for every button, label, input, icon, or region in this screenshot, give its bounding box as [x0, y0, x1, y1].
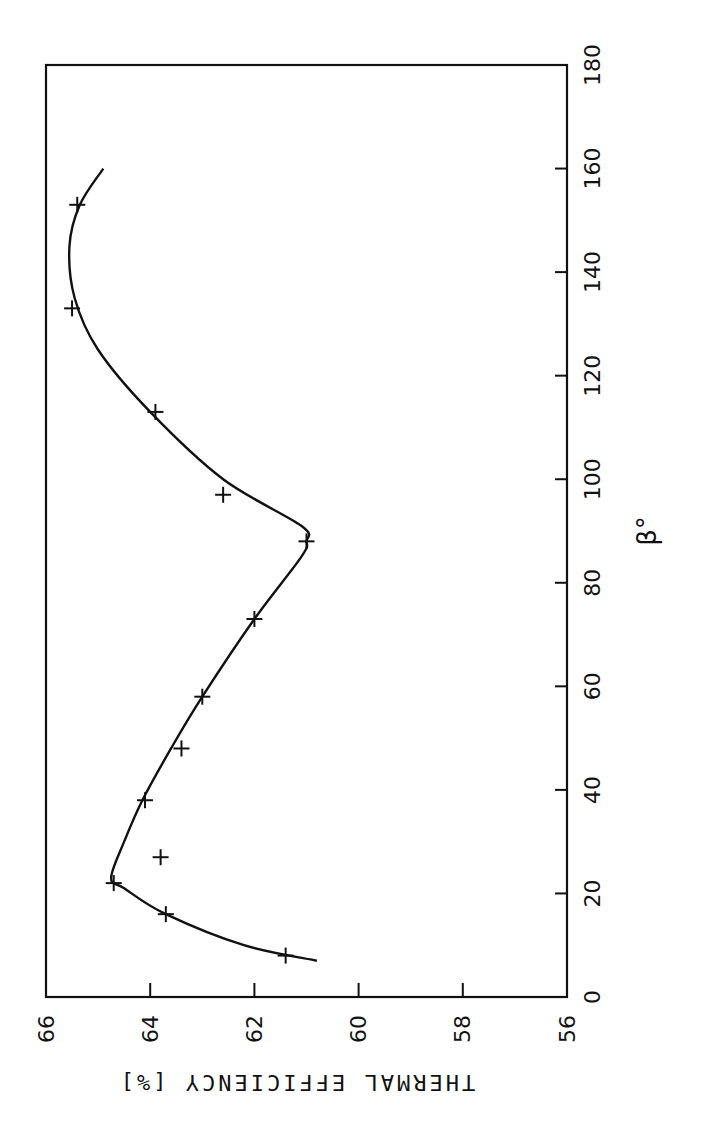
axis-ticks: 020406080100120140160180565860626466: [34, 44, 605, 1043]
data-point-marker: [215, 487, 231, 503]
data-point-marker: [278, 948, 294, 964]
x-tick-label: 20: [580, 879, 605, 907]
x-tick-label: 120: [580, 355, 605, 397]
x-tick-label: 180: [580, 44, 605, 86]
y-tick-label: 62: [242, 1015, 267, 1043]
y-tick-label: 56: [555, 1015, 580, 1043]
x-tick-label: 160: [580, 148, 605, 190]
axis-labels: β° THERMAL EFFICIENCY [%]: [118, 516, 662, 1094]
x-tick-label: 100: [580, 458, 605, 500]
data-point-marker: [153, 849, 169, 865]
data-point-marker: [147, 404, 163, 420]
fitted-curve-line: [69, 169, 317, 961]
y-tick-label: 60: [346, 1015, 371, 1043]
y-tick-label: 66: [34, 1015, 59, 1043]
thermal-efficiency-chart: 020406080100120140160180565860626466 β° …: [0, 0, 701, 1138]
data-point-marker: [194, 689, 210, 705]
y-tick-label: 64: [138, 1015, 163, 1043]
x-tick-label: 80: [580, 569, 605, 597]
y-tick-label: 58: [450, 1015, 475, 1043]
data-point-marker: [64, 300, 80, 316]
y-axis-title: THERMAL EFFICIENCY [%]: [118, 1070, 475, 1095]
x-tick-label: 0: [580, 990, 605, 1004]
data-point-marker: [246, 611, 262, 627]
data-point-marker: [173, 740, 189, 756]
data-point-marker: [299, 533, 315, 549]
x-tick-label: 140: [580, 251, 605, 293]
x-axis-title: β°: [632, 516, 662, 546]
x-tick-label: 40: [580, 776, 605, 804]
data-points: [64, 197, 314, 964]
fitted-curve: [69, 169, 317, 961]
data-point-marker: [158, 906, 174, 922]
x-tick-label: 60: [580, 672, 605, 700]
data-point-marker: [106, 875, 122, 891]
